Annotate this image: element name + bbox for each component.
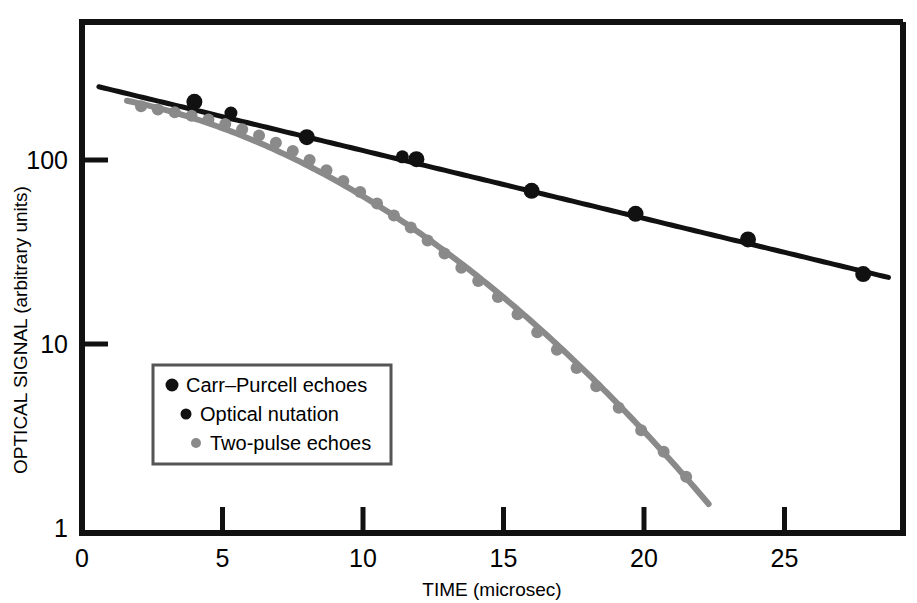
data-point [371, 198, 383, 210]
x-tick-label: 20 [630, 544, 658, 572]
x-tick-label: 5 [216, 544, 230, 572]
data-point [658, 446, 670, 458]
data-point [740, 231, 756, 247]
data-point [299, 129, 315, 145]
data-point [531, 326, 543, 338]
data-point [512, 308, 524, 320]
data-point [135, 100, 147, 112]
data-point [186, 94, 202, 110]
data-point [388, 209, 400, 221]
figure-root: 110100 0510152025 Carr–Purcell echoesOpt… [0, 0, 917, 603]
data-point [408, 151, 424, 167]
data-point [472, 275, 484, 287]
x-tick-label: 0 [75, 544, 89, 572]
data-point [270, 137, 282, 149]
y-axis-ticks: 110100 [26, 146, 108, 542]
data-point [680, 471, 692, 483]
y-tick-label: 1 [54, 514, 68, 542]
data-point [396, 150, 409, 163]
data-point [253, 129, 265, 141]
data-point [405, 221, 417, 233]
data-point [320, 164, 332, 176]
data-point [551, 344, 563, 356]
x-tick-label: 25 [771, 544, 799, 572]
series-fit-line [99, 87, 889, 278]
x-tick-label: 15 [490, 544, 518, 572]
data-point [855, 266, 871, 282]
data-point [354, 186, 366, 198]
legend: Carr–Purcell echoesOptical nutationTwo-p… [153, 365, 391, 464]
y-axis-title: OPTICAL SIGNAL (arbitrary units) [10, 186, 31, 474]
data-point [224, 107, 237, 120]
legend-marker-2 [181, 409, 192, 420]
data-point [202, 114, 214, 126]
data-point [169, 106, 181, 118]
data-point [524, 183, 540, 199]
data-point [422, 235, 434, 247]
data-point [287, 145, 299, 157]
x-axis-title: TIME (microsec) [422, 579, 561, 600]
data-point [635, 424, 647, 436]
legend-label-1: Carr–Purcell echoes [186, 374, 367, 396]
data-point [186, 110, 198, 122]
legend-label-3: Two-pulse echoes [210, 432, 371, 454]
x-tick-label: 10 [349, 544, 377, 572]
data-point [219, 118, 231, 130]
data-point [455, 262, 467, 274]
y-tick-label: 100 [26, 146, 68, 174]
data-point [337, 175, 349, 187]
data-point [613, 402, 625, 414]
x-axis-ticks: 0510152025 [75, 507, 798, 572]
chart-canvas: 110100 0510152025 Carr–Purcell echoesOpt… [0, 0, 917, 603]
y-tick-label: 10 [40, 330, 68, 358]
data-point [628, 206, 644, 222]
data-point [304, 154, 316, 166]
legend-marker-3 [191, 438, 201, 448]
data-point [438, 248, 450, 260]
data-point [590, 380, 602, 392]
legend-label-2: Optical nutation [200, 403, 339, 425]
data-point [571, 362, 583, 374]
legend-marker-1 [166, 379, 179, 392]
data-point [152, 104, 164, 116]
data-point [492, 291, 504, 303]
data-point [236, 123, 248, 135]
